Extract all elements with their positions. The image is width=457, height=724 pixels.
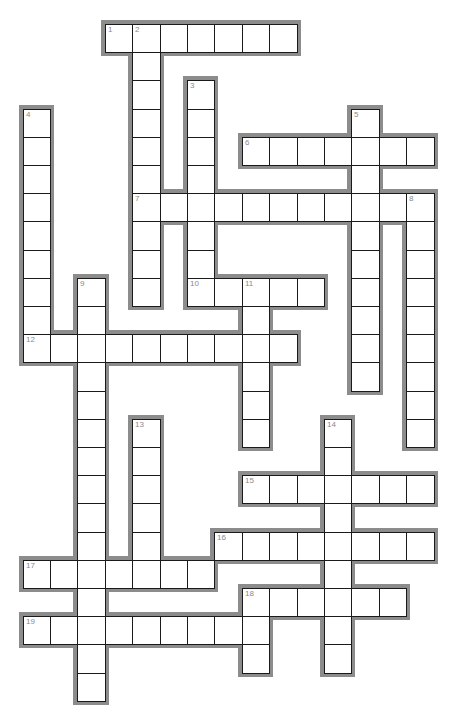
crossword-cell[interactable] — [406, 334, 435, 363]
crossword-cell[interactable] — [23, 278, 51, 307]
crossword-cell[interactable] — [187, 250, 215, 279]
crossword-cell[interactable] — [23, 250, 51, 279]
crossword-cell[interactable] — [269, 588, 298, 617]
crossword-cell[interactable] — [77, 362, 106, 392]
crossword-cell[interactable] — [242, 24, 270, 53]
crossword-cell[interactable] — [50, 616, 78, 645]
crossword-cell[interactable] — [324, 503, 352, 533]
crossword-cell[interactable] — [23, 193, 51, 222]
crossword-cell[interactable] — [351, 278, 380, 307]
crossword-cell[interactable] — [187, 334, 215, 363]
crossword-cell[interactable] — [160, 24, 188, 53]
crossword-cell[interactable]: 12 — [23, 334, 51, 363]
crossword-cell[interactable] — [379, 137, 407, 166]
crossword-cell[interactable] — [351, 165, 380, 194]
crossword-cell[interactable] — [187, 165, 215, 194]
crossword-cell[interactable]: 3 — [187, 80, 215, 110]
crossword-cell[interactable] — [160, 616, 188, 645]
crossword-cell[interactable] — [132, 334, 161, 363]
crossword-cell[interactable] — [379, 475, 407, 504]
crossword-cell[interactable] — [351, 250, 380, 279]
crossword-cell[interactable] — [379, 532, 407, 561]
crossword-cell[interactable] — [324, 588, 352, 617]
crossword-cell[interactable] — [77, 532, 106, 561]
crossword-cell[interactable]: 5 — [351, 109, 380, 138]
crossword-cell[interactable] — [406, 278, 435, 307]
crossword-cell[interactable]: 14 — [324, 419, 352, 448]
crossword-cell[interactable] — [351, 221, 380, 251]
crossword-cell[interactable] — [242, 616, 270, 645]
crossword-cell[interactable] — [379, 588, 407, 617]
crossword-cell[interactable] — [160, 560, 188, 589]
crossword-cell[interactable] — [77, 306, 106, 335]
crossword-cell[interactable] — [406, 475, 435, 504]
crossword-cell[interactable] — [187, 560, 215, 589]
crossword-cell[interactable] — [77, 391, 106, 420]
crossword-cell[interactable] — [187, 109, 215, 138]
crossword-cell[interactable]: 18 — [242, 588, 270, 617]
crossword-cell[interactable] — [324, 193, 352, 222]
crossword-cell[interactable] — [406, 362, 435, 392]
crossword-cell[interactable] — [132, 109, 161, 138]
crossword-cell[interactable] — [214, 24, 243, 53]
crossword-cell[interactable]: 19 — [23, 616, 51, 645]
crossword-cell[interactable] — [132, 221, 161, 251]
crossword-cell[interactable] — [77, 673, 106, 702]
crossword-cell[interactable] — [187, 616, 215, 645]
crossword-cell[interactable] — [269, 475, 298, 504]
crossword-cell[interactable] — [214, 193, 243, 222]
crossword-cell[interactable]: 13 — [132, 419, 161, 448]
crossword-cell[interactable] — [77, 447, 106, 476]
crossword-cell[interactable] — [324, 616, 352, 645]
crossword-cell[interactable] — [324, 644, 352, 674]
crossword-cell[interactable] — [269, 278, 298, 307]
crossword-cell[interactable] — [406, 250, 435, 279]
crossword-cell[interactable] — [406, 391, 435, 420]
crossword-cell[interactable] — [160, 193, 188, 222]
crossword-cell[interactable] — [242, 419, 270, 448]
crossword-cell[interactable] — [160, 334, 188, 363]
crossword-cell[interactable] — [77, 560, 106, 589]
crossword-cell[interactable]: 4 — [23, 109, 51, 138]
crossword-cell[interactable] — [77, 475, 106, 504]
crossword-cell[interactable] — [132, 616, 161, 645]
crossword-cell[interactable] — [297, 532, 325, 561]
crossword-cell[interactable] — [406, 419, 435, 448]
crossword-cell[interactable] — [406, 137, 435, 166]
crossword-cell[interactable] — [23, 306, 51, 335]
crossword-cell[interactable] — [77, 334, 106, 363]
crossword-cell[interactable] — [297, 475, 325, 504]
crossword-cell[interactable]: 1 — [105, 24, 133, 53]
crossword-cell[interactable] — [132, 475, 161, 504]
crossword-cell[interactable] — [105, 616, 133, 645]
crossword-cell[interactable] — [351, 362, 380, 392]
crossword-cell[interactable]: 6 — [242, 137, 270, 166]
crossword-cell[interactable] — [187, 137, 215, 166]
crossword-cell[interactable] — [132, 250, 161, 279]
crossword-cell[interactable] — [132, 447, 161, 476]
crossword-cell[interactable] — [77, 616, 106, 645]
crossword-cell[interactable]: 17 — [23, 560, 51, 589]
crossword-cell[interactable] — [324, 137, 352, 166]
crossword-cell[interactable] — [351, 193, 380, 222]
crossword-cell[interactable] — [351, 334, 380, 363]
crossword-cell[interactable] — [50, 334, 78, 363]
crossword-cell[interactable] — [23, 221, 51, 251]
crossword-cell[interactable] — [269, 193, 298, 222]
crossword-cell[interactable] — [351, 475, 380, 504]
crossword-cell[interactable] — [242, 532, 270, 561]
crossword-cell[interactable] — [77, 588, 106, 617]
crossword-cell[interactable]: 16 — [214, 532, 243, 561]
crossword-cell[interactable] — [351, 532, 380, 561]
crossword-cell[interactable] — [132, 503, 161, 533]
crossword-cell[interactable] — [132, 560, 161, 589]
crossword-cell[interactable] — [77, 419, 106, 448]
crossword-cell[interactable] — [242, 193, 270, 222]
crossword-cell[interactable] — [324, 532, 352, 561]
crossword-cell[interactable] — [132, 137, 161, 166]
crossword-cell[interactable]: 15 — [242, 475, 270, 504]
crossword-cell[interactable] — [324, 475, 352, 504]
crossword-cell[interactable] — [214, 616, 243, 645]
crossword-cell[interactable] — [324, 560, 352, 589]
crossword-cell[interactable] — [269, 137, 298, 166]
